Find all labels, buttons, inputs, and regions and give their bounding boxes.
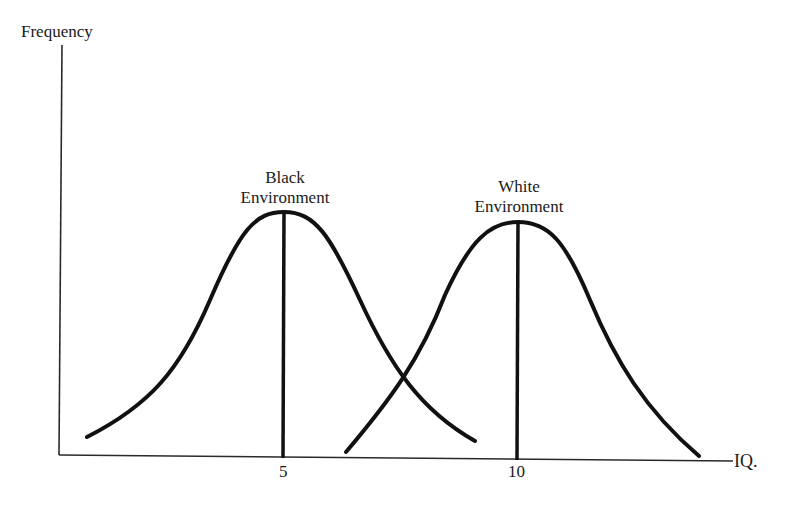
- x-axis-label: IQ.: [734, 452, 758, 471]
- black-label-line2: Environment: [222, 188, 348, 208]
- iq-distribution-chart: Frequency IQ. 5 10 Black Environment Whi…: [0, 0, 786, 505]
- y-axis-label: Frequency: [21, 22, 93, 41]
- black-environment-mean-line: [283, 212, 284, 458]
- white-environment-label: White Environment: [456, 177, 582, 217]
- white-label-line2: Environment: [456, 197, 582, 217]
- x-axis: [59, 455, 733, 461]
- x-tick-10: 10: [508, 462, 525, 481]
- y-axis: [59, 45, 62, 455]
- chart-canvas: [0, 0, 786, 505]
- white-environment-curve: [346, 222, 699, 456]
- black-environment-label: Black Environment: [222, 168, 348, 208]
- black-environment-curve: [87, 212, 475, 441]
- x-tick-5: 5: [279, 462, 288, 481]
- white-label-line1: White: [456, 177, 582, 197]
- white-environment-mean-line: [517, 222, 518, 460]
- black-label-line1: Black: [222, 168, 348, 188]
